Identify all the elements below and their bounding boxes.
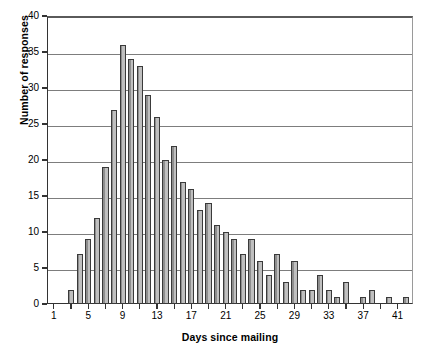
x-tick-label: 13: [145, 311, 169, 321]
x-axis-title: Days since mailing: [47, 331, 413, 343]
y-tick-mark: [42, 267, 47, 268]
bar: [85, 239, 91, 304]
bar: [283, 282, 289, 304]
bar: [274, 254, 280, 304]
x-tick-mark: [259, 304, 260, 309]
y-tick-label: 0: [3, 299, 39, 309]
histogram-chart: Number of responses 0510152025303540 159…: [0, 0, 421, 351]
bar: [369, 290, 375, 304]
bar: [317, 275, 323, 304]
x-tick-mark: [328, 304, 329, 309]
x-tick-mark: [397, 304, 398, 309]
x-tick-mark: [345, 304, 346, 309]
x-tick-mark: [294, 304, 295, 309]
bar: [68, 290, 74, 304]
bar: [137, 66, 143, 304]
y-tick-label: 20: [3, 155, 39, 165]
bar: [214, 225, 220, 304]
y-tick-mark: [42, 159, 47, 160]
bar: [309, 290, 315, 304]
bar: [403, 297, 409, 304]
x-tick-mark: [191, 304, 192, 309]
bar: [343, 282, 349, 304]
bar: [291, 261, 297, 304]
y-tick-mark: [42, 231, 47, 232]
bar: [240, 254, 246, 304]
x-tick-mark: [88, 304, 89, 309]
x-tick-mark: [53, 304, 54, 309]
x-tick-mark: [156, 304, 157, 309]
bar: [223, 232, 229, 304]
y-tick-mark: [42, 87, 47, 88]
bar: [300, 290, 306, 304]
y-tick-mark: [42, 51, 47, 52]
y-tick-mark: [42, 123, 47, 124]
y-tick-label: 35: [3, 47, 39, 57]
y-tick-label: 5: [3, 263, 39, 273]
y-tick-label: 40: [3, 11, 39, 21]
y-tick-label: 10: [3, 227, 39, 237]
x-tick-label: 33: [317, 311, 341, 321]
x-tick-mark: [242, 304, 243, 309]
bar: [205, 203, 211, 304]
x-tick-label: 17: [179, 311, 203, 321]
bar-series: [47, 16, 413, 304]
bar: [120, 45, 126, 304]
x-tick-mark: [122, 304, 123, 309]
x-tick-mark: [380, 304, 381, 309]
y-tick-label: 25: [3, 119, 39, 129]
x-tick-mark: [105, 304, 106, 309]
x-tick-mark: [277, 304, 278, 309]
bar: [128, 59, 134, 304]
bar: [231, 239, 237, 304]
bar: [94, 218, 100, 304]
x-tick-label: 25: [248, 311, 272, 321]
bar: [180, 182, 186, 304]
y-tick-label: 15: [3, 191, 39, 201]
y-tick-label: 30: [3, 83, 39, 93]
bar: [111, 110, 117, 304]
y-tick-mark: [42, 195, 47, 196]
bar: [154, 117, 160, 304]
bar: [171, 146, 177, 304]
bar: [257, 261, 263, 304]
bar: [77, 254, 83, 304]
x-tick-label: 37: [351, 311, 375, 321]
x-tick-mark: [225, 304, 226, 309]
bar: [386, 297, 392, 304]
x-tick-label: 1: [42, 311, 66, 321]
y-tick-mark: [42, 303, 47, 304]
bar: [334, 297, 340, 304]
x-tick-label: 9: [111, 311, 135, 321]
y-tick-mark: [42, 15, 47, 16]
x-tick-mark: [311, 304, 312, 309]
x-tick-label: 5: [76, 311, 100, 321]
x-tick-mark: [174, 304, 175, 309]
bar: [248, 239, 254, 304]
bar: [188, 189, 194, 304]
x-tick-label: 21: [214, 311, 238, 321]
bar: [266, 275, 272, 304]
x-tick-mark: [208, 304, 209, 309]
bar: [162, 160, 168, 304]
bar: [145, 95, 151, 304]
x-tick-label: 29: [282, 311, 306, 321]
x-tick-label: 41: [386, 311, 410, 321]
x-tick-mark: [70, 304, 71, 309]
x-tick-mark: [363, 304, 364, 309]
x-tick-mark: [139, 304, 140, 309]
bar: [360, 297, 366, 304]
bar: [326, 290, 332, 304]
bar: [102, 167, 108, 304]
bar: [197, 210, 203, 304]
